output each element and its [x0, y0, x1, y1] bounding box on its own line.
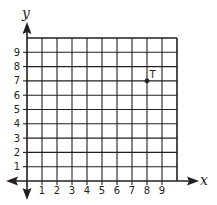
y-tick-label: 6 — [14, 90, 20, 101]
y-tick-label: 4 — [14, 118, 20, 129]
coordinate-grid: x y 123456789 123456789 T — [0, 0, 217, 205]
y-axis-label: y — [21, 5, 31, 21]
y-tick-labels: 123456789 — [14, 47, 27, 172]
x-axis-label: x — [200, 172, 208, 188]
y-tick-label: 2 — [14, 147, 20, 158]
y-tick-label: 1 — [14, 161, 20, 172]
x-tick-label: 5 — [99, 185, 105, 196]
x-tick-label: 1 — [39, 185, 45, 196]
x-tick-label: 3 — [69, 185, 75, 196]
y-tick-label: 5 — [14, 104, 20, 115]
x-tick-label: 9 — [159, 185, 165, 196]
x-tick-label: 7 — [129, 185, 135, 196]
y-tick-label: 9 — [14, 47, 20, 58]
y-tick-label: 7 — [14, 75, 20, 86]
grid-lines — [27, 38, 177, 181]
x-tick-label: 8 — [144, 185, 150, 196]
x-tick-label: 4 — [84, 185, 90, 196]
point-label: T — [149, 69, 157, 80]
y-tick-label: 3 — [14, 133, 20, 144]
y-tick-label: 8 — [14, 61, 20, 72]
x-tick-label: 2 — [54, 185, 60, 196]
x-tick-labels: 123456789 — [39, 181, 165, 196]
x-tick-label: 6 — [114, 185, 120, 196]
